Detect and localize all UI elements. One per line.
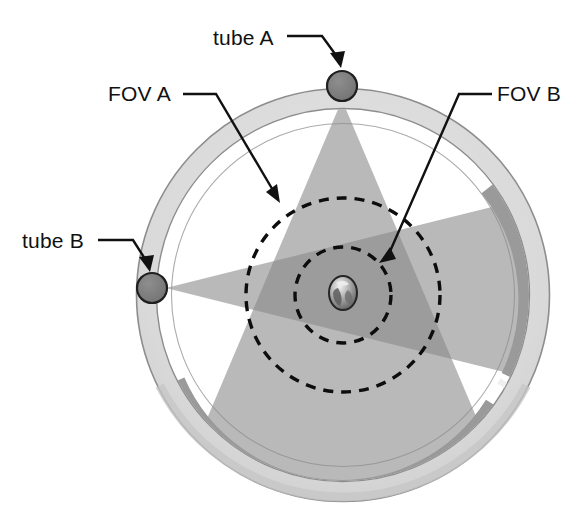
label-fov-a: FOV A — [108, 82, 171, 105]
label-tube-b: tube B — [22, 229, 84, 252]
tube-b-marker[interactable] — [137, 273, 167, 303]
scanned-object-group — [329, 276, 357, 310]
annotation-tube-a: tube A — [213, 26, 345, 68]
ct-gantry-diagram: tube A FOV A FOV B tube B — [0, 0, 582, 528]
label-tube-a: tube A — [213, 26, 274, 49]
arrowhead-tube-a — [330, 51, 345, 68]
leader-line-tube-a — [287, 36, 338, 58]
label-fov-b: FOV B — [497, 82, 561, 105]
diagram-canvas: tube A FOV A FOV B tube B — [0, 0, 582, 528]
annotation-tube-b: tube B — [22, 229, 154, 272]
tube-a-marker[interactable] — [327, 71, 357, 101]
